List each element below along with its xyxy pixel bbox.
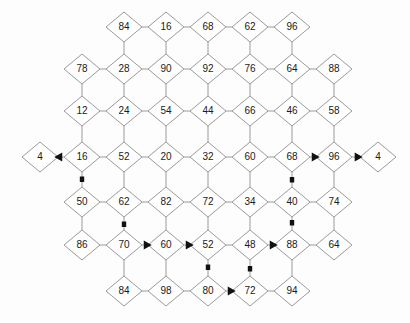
node-label: 84 [118,21,130,32]
lattice-node-layer: 8416686296782890927664881224544466465841… [22,12,396,306]
node-label: 24 [118,105,130,116]
lattice-node[interactable]: 28 [106,54,142,84]
node-label: 60 [244,151,256,162]
lattice-node[interactable]: 60 [148,230,184,260]
lattice-node[interactable]: 50 [64,187,100,217]
lattice-node[interactable]: 84 [106,12,142,42]
node-label: 4 [375,151,381,162]
lattice-node[interactable]: 46 [274,96,310,126]
lattice-node[interactable]: 4 [360,142,396,172]
node-label: 70 [118,239,130,250]
lattice-node[interactable]: 74 [316,187,352,217]
node-label: 16 [160,21,172,32]
node-label: 4 [37,151,43,162]
lattice-node[interactable]: 52 [190,230,226,260]
lattice-node[interactable]: 88 [274,230,310,260]
diagram-canvas: 8416686296782890927664881224544466465841… [0,0,410,323]
lattice-node[interactable]: 70 [106,230,142,260]
node-label: 80 [202,285,214,296]
node-label: 28 [118,63,130,74]
node-label: 44 [202,105,214,116]
node-label: 82 [160,196,172,207]
lattice-node[interactable]: 58 [316,96,352,126]
node-label: 54 [160,105,172,116]
node-label: 58 [328,105,340,116]
node-label: 68 [202,21,214,32]
lattice-node[interactable]: 88 [316,54,352,84]
node-label: 96 [328,151,340,162]
lattice-node[interactable]: 12 [64,96,100,126]
node-label: 98 [160,285,172,296]
node-label: 52 [118,151,130,162]
path-direction-arrow-icon [186,240,194,249]
node-label: 64 [328,239,340,250]
node-label: 16 [76,151,88,162]
lattice-node[interactable]: 78 [64,54,100,84]
lattice-node[interactable]: 32 [190,142,226,172]
lattice-node[interactable]: 34 [232,187,268,217]
lattice-node[interactable]: 48 [232,230,268,260]
lattice-node[interactable]: 94 [274,276,310,306]
node-label: 74 [328,196,340,207]
node-label: 72 [244,285,256,296]
node-label: 76 [244,63,256,74]
lattice-node[interactable]: 62 [106,187,142,217]
lattice-node[interactable]: 90 [148,54,184,84]
node-label: 66 [244,105,256,116]
node-label: 78 [76,63,88,74]
node-label: 72 [202,196,214,207]
path-direction-arrow-icon [144,240,152,249]
path-direction-arrow-icon [355,152,363,161]
path-direction-arrow-icon [228,286,236,295]
node-label: 60 [160,239,172,250]
lattice-node[interactable]: 68 [274,142,310,172]
path-direction-arrow-icon [312,152,320,161]
lattice-node[interactable]: 96 [274,12,310,42]
lattice-node[interactable]: 72 [190,187,226,217]
lattice-node[interactable]: 86 [64,230,100,260]
lattice-node[interactable]: 4 [22,142,58,172]
path-direction-arrow-icon [54,152,62,161]
lattice-node[interactable]: 84 [106,276,142,306]
lattice-node[interactable]: 96 [316,142,352,172]
lattice-node[interactable]: 98 [148,276,184,306]
node-label: 52 [202,239,214,250]
lattice-node[interactable]: 40 [274,187,310,217]
node-label: 46 [286,105,298,116]
node-label: 92 [202,63,214,74]
lattice-node[interactable]: 66 [232,96,268,126]
lattice-node[interactable]: 16 [64,142,100,172]
lattice-node[interactable]: 60 [232,142,268,172]
node-label: 48 [244,239,256,250]
lattice-node[interactable]: 72 [232,276,268,306]
lattice-node[interactable]: 64 [274,54,310,84]
lattice-node[interactable]: 16 [148,12,184,42]
node-label: 88 [286,239,298,250]
node-label: 62 [118,196,130,207]
lattice-node[interactable]: 52 [106,142,142,172]
node-label: 34 [244,196,256,207]
node-label: 68 [286,151,298,162]
lattice-node[interactable]: 24 [106,96,142,126]
node-label: 96 [286,21,298,32]
node-label: 88 [328,63,340,74]
lattice-node[interactable]: 80 [190,276,226,306]
lattice-node[interactable]: 64 [316,230,352,260]
node-label: 50 [76,196,88,207]
node-label: 12 [76,105,88,116]
lattice-node[interactable]: 20 [148,142,184,172]
lattice-node[interactable]: 62 [232,12,268,42]
node-label: 94 [286,285,298,296]
node-label: 62 [244,21,256,32]
lattice-node[interactable]: 68 [190,12,226,42]
node-label: 86 [76,239,88,250]
lattice-node[interactable]: 44 [190,96,226,126]
lattice-graph: 8416686296782890927664881224544466465841… [0,0,410,323]
lattice-node[interactable]: 54 [148,96,184,126]
lattice-node[interactable]: 92 [190,54,226,84]
lattice-node[interactable]: 76 [232,54,268,84]
node-label: 90 [160,63,172,74]
lattice-node[interactable]: 82 [148,187,184,217]
node-label: 64 [286,63,298,74]
path-direction-arrow-icon [270,240,278,249]
